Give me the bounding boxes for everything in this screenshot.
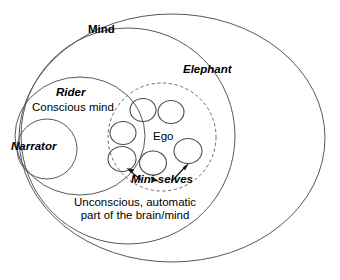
region-label-rider: Rider xyxy=(56,86,85,99)
annotation-label-mini-selves: Mini-selves xyxy=(131,173,193,186)
mini-self-circle xyxy=(110,122,136,145)
region-label-mind: Mind xyxy=(88,23,115,36)
mini-self-circle xyxy=(158,101,184,124)
mini-self-circle xyxy=(140,151,167,175)
region-label-elephant: Elephant xyxy=(183,63,232,76)
venn-diagram: Mind Elephant Rider Conscious mind Narra… xyxy=(0,0,340,280)
annotation-label-conscious-mind: Conscious mind xyxy=(32,101,114,114)
caption-unconscious: Unconscious, automatic part of the brain… xyxy=(61,196,209,222)
region-label-ego: Ego xyxy=(153,130,173,143)
caption-line-2: part of the brain/mind xyxy=(61,209,209,222)
region-label-narrator: Narrator xyxy=(11,140,56,153)
caption-line-1: Unconscious, automatic xyxy=(61,196,209,209)
mini-self-circle xyxy=(130,99,156,122)
mini-self-circle xyxy=(174,139,202,164)
